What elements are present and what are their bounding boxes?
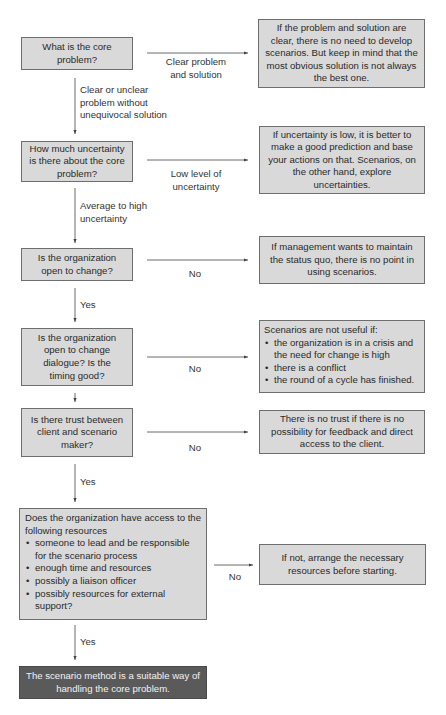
outcome-text: If not, arrange the necessary resources … <box>265 552 420 577</box>
question-text: How much uncertainty is there about the … <box>27 143 127 181</box>
question-intro: Does the organization have access to the… <box>25 512 201 537</box>
outcome-text: If the problem and solution are clear, t… <box>264 22 419 85</box>
question-change-dialogue: Is the organization open to change dialo… <box>21 328 133 386</box>
question-uncertainty: How much uncertainty is there about the … <box>21 141 133 182</box>
outcome-status-quo: If management wants to maintain the stat… <box>259 236 425 284</box>
list-item: someone to lead and be responsible for t… <box>35 537 201 562</box>
outcome-intro: Scenarios are not useful if: <box>264 324 420 337</box>
list-item: enough time and resources <box>35 562 201 575</box>
outcome-text: If uncertainty is low, it is better to m… <box>265 129 419 192</box>
question-resources: Does the organization have access to the… <box>19 508 207 620</box>
list-item: the round of a cycle has finished. <box>274 374 420 387</box>
edge-label: Yes <box>80 636 96 649</box>
list-item: the organization is in a crisis and the … <box>274 337 420 362</box>
outcome-no-trust: There is no trust if there is no possibi… <box>259 410 425 454</box>
edge-label: No <box>220 571 250 584</box>
conditions-list: the organization is in a crisis and the … <box>264 337 420 387</box>
edge-label: Average to high uncertainty <box>80 200 160 225</box>
edge-label: No <box>180 363 210 376</box>
outcome-text: There is no trust if there is no possibi… <box>265 413 419 451</box>
outcome-no-scenarios-needed: If the problem and solution are clear, t… <box>258 19 425 88</box>
list-item: possibly a liaison officer <box>35 575 201 588</box>
list-item: possibly resources for external support? <box>35 588 201 613</box>
question-text: Is there trust between client and scenar… <box>27 414 127 452</box>
question-trust: Is there trust between client and scenar… <box>21 408 133 457</box>
question-text: Is the organization open to change dialo… <box>32 332 122 382</box>
edge-label: Yes <box>80 476 96 489</box>
question-core-problem: What is the core problem? <box>21 37 133 70</box>
outcome-low-uncertainty: If uncertainty is low, it is better to m… <box>259 126 425 194</box>
edge-label: No <box>180 442 210 455</box>
edge-label: Low level of uncertainty <box>160 168 232 193</box>
resource-list: someone to lead and be responsible for t… <box>25 537 201 613</box>
edge-label: No <box>180 268 210 281</box>
edge-label: Clear or unclear problem without unequiv… <box>80 84 170 122</box>
outcome-not-useful: Scenarios are not useful if: the organiz… <box>259 320 425 393</box>
list-item: there is a conflict <box>274 362 420 375</box>
question-text: What is the core problem? <box>37 41 117 66</box>
final-result: The scenario method is a suitable way of… <box>19 666 207 699</box>
edge-label: Yes <box>80 299 96 312</box>
edge-label: Clear problem and solution <box>160 56 232 81</box>
final-text: The scenario method is a suitable way of… <box>25 670 201 695</box>
question-text: Is the organization open to change? <box>32 252 122 277</box>
question-open-to-change: Is the organization open to change? <box>21 248 133 281</box>
outcome-text: If management wants to maintain the stat… <box>265 241 419 279</box>
outcome-arrange-resources: If not, arrange the necessary resources … <box>259 544 426 585</box>
